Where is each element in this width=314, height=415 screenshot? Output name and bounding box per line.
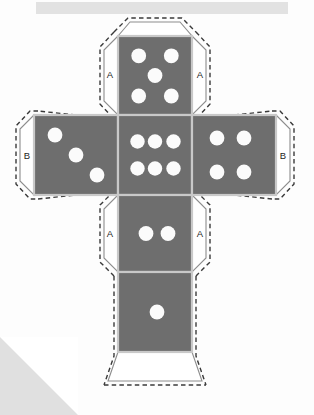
pip [164,48,179,63]
pip [237,165,252,180]
flap-label-top-right: A [197,69,204,80]
die-faces [34,36,276,352]
flap-label-lower-left: A [107,228,114,239]
flap-label-right-outer: B [280,150,286,161]
face-three [34,115,118,195]
face-five [118,36,192,115]
face-four [192,115,276,195]
pip [48,128,63,143]
face-two-rect [118,195,192,272]
pip [164,89,179,104]
face-six-rect [118,115,192,195]
pip [166,134,180,148]
pip [210,165,225,180]
flap-bottom-shape [108,352,202,381]
pip [131,89,146,104]
face-four-rect [192,115,276,195]
pip [161,226,176,241]
pip [148,161,162,175]
face-two [118,195,192,272]
pip [90,168,105,183]
dice-net-diagram: A A B B A A [0,0,314,415]
face-one [118,272,192,352]
pip [148,68,163,83]
pip [130,134,144,148]
pip [131,48,146,63]
page-canvas: A A B B A A [0,0,314,415]
pip [166,161,180,175]
flap-top-shape [118,22,192,36]
pip [130,161,144,175]
pip [139,226,154,241]
pip [210,131,225,146]
pip [150,305,165,320]
pip [237,131,252,146]
flap-label-left-outer: B [24,150,30,161]
flap-label-top-left: A [107,69,114,80]
pip [69,148,84,163]
flap-label-lower-right: A [197,228,204,239]
face-six [118,115,192,195]
pip [148,134,162,148]
